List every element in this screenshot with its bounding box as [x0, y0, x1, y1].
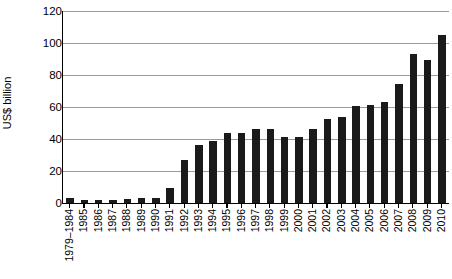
- bar-series: [63, 11, 449, 203]
- y-axis-ticks: 020406080100120: [14, 11, 62, 203]
- x-tick-label: 2003: [335, 209, 346, 232]
- x-tick-label: 1992: [178, 209, 189, 232]
- bar-slot: [249, 11, 263, 203]
- bar-slot: [363, 11, 377, 203]
- x-label-slot: 2005: [362, 209, 376, 279]
- x-tick-mark: [326, 204, 327, 208]
- x-tick-mark: [169, 204, 170, 208]
- bar: [109, 200, 117, 203]
- x-tick-mark: [241, 204, 242, 208]
- x-label-slot: 1991: [162, 209, 176, 279]
- bar-slot: [235, 11, 249, 203]
- x-tick-label: 1991: [164, 209, 175, 232]
- x-tick-label: 1993: [192, 209, 203, 232]
- y-tick-label: 120: [16, 6, 62, 16]
- x-tick-mark: [69, 204, 70, 208]
- bar-slot: [149, 11, 163, 203]
- x-tick-mark: [355, 204, 356, 208]
- bar: [152, 198, 160, 203]
- x-tick-label: 1995: [221, 209, 232, 232]
- x-tick-label: 1987: [107, 209, 118, 232]
- x-tick-mark: [341, 204, 342, 208]
- x-label-slot: 1997: [248, 209, 262, 279]
- x-tick-label: 1985: [78, 209, 89, 232]
- x-tick-mark: [212, 204, 213, 208]
- x-axis-labels: 1979–19841985198619871988198919901991199…: [62, 209, 448, 279]
- x-tick-label: 1997: [250, 209, 261, 232]
- x-tick-label: 2004: [350, 209, 361, 232]
- bar-slot: [134, 11, 148, 203]
- bar-slot: [277, 11, 291, 203]
- bar: [367, 105, 375, 203]
- bar: [81, 200, 89, 203]
- bar-slot: [435, 11, 449, 203]
- bar-slot: [392, 11, 406, 203]
- bar-slot: [420, 11, 434, 203]
- y-tick-label: 20: [16, 166, 62, 176]
- x-label-slot: 1992: [176, 209, 190, 279]
- bar-slot: [320, 11, 334, 203]
- bar: [166, 188, 174, 203]
- x-tick-mark: [141, 204, 142, 208]
- bar: [138, 198, 146, 203]
- x-tick-mark: [398, 204, 399, 208]
- x-tick-label: 1979–1984: [64, 209, 75, 262]
- x-tick-mark: [112, 204, 113, 208]
- x-label-slot: 1993: [191, 209, 205, 279]
- bar: [395, 84, 403, 203]
- bar-slot: [92, 11, 106, 203]
- bar: [281, 137, 289, 203]
- bar: [181, 160, 189, 203]
- x-tick-mark: [369, 204, 370, 208]
- x-tick-label: 1996: [235, 209, 246, 232]
- bar: [224, 133, 232, 203]
- y-axis-title: US$ billion: [0, 0, 14, 205]
- x-tick-label: 2006: [378, 209, 389, 232]
- x-label-slot: 1989: [133, 209, 147, 279]
- x-label-slot: 1998: [262, 209, 276, 279]
- bar-slot: [192, 11, 206, 203]
- bar: [209, 141, 217, 203]
- x-label-slot: 2010: [434, 209, 448, 279]
- x-tick-mark: [298, 204, 299, 208]
- x-tick-label: 1998: [264, 209, 275, 232]
- bar: [95, 200, 103, 203]
- bar: [410, 54, 418, 203]
- bar-slot: [63, 11, 77, 203]
- bar-slot: [406, 11, 420, 203]
- bar: [66, 198, 74, 203]
- bar-slot: [220, 11, 234, 203]
- bar: [324, 119, 332, 203]
- y-axis-title-label: US$ billion: [1, 76, 13, 129]
- y-tick-label: 60: [16, 102, 62, 112]
- x-tick-mark: [284, 204, 285, 208]
- x-tick-label: 1989: [135, 209, 146, 232]
- bar-slot: [349, 11, 363, 203]
- x-tick-mark: [255, 204, 256, 208]
- bar-slot: [120, 11, 134, 203]
- bar-slot: [263, 11, 277, 203]
- bar: [252, 129, 260, 203]
- x-label-slot: 2007: [391, 209, 405, 279]
- bar: [309, 129, 317, 203]
- x-tick-label: 1999: [278, 209, 289, 232]
- x-label-slot: 2001: [305, 209, 319, 279]
- bar: [424, 60, 432, 203]
- x-label-slot: 1985: [76, 209, 90, 279]
- x-label-slot: 1995: [219, 209, 233, 279]
- x-tick-mark: [312, 204, 313, 208]
- x-tick-label: 2009: [421, 209, 432, 232]
- x-tick-label: 2001: [307, 209, 318, 232]
- x-tick-label: 1988: [121, 209, 132, 232]
- x-tick-label: 2007: [392, 209, 403, 232]
- bar-slot: [378, 11, 392, 203]
- bar: [381, 102, 389, 203]
- x-tick-label: 2000: [292, 209, 303, 232]
- x-tick-label: 2002: [321, 209, 332, 232]
- x-tick-label: 1994: [207, 209, 218, 232]
- x-label-slot: 2003: [334, 209, 348, 279]
- x-label-slot: 1996: [234, 209, 248, 279]
- x-tick-mark: [126, 204, 127, 208]
- x-label-slot: 1979–1984: [62, 209, 76, 279]
- y-tick-label: 40: [16, 134, 62, 144]
